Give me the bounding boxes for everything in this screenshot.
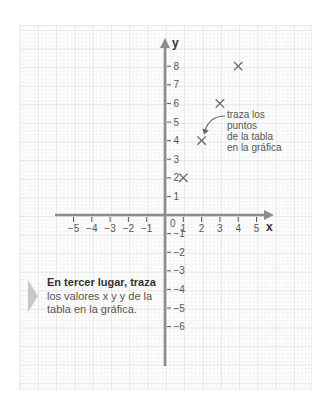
x-tick-label: 4 [235, 223, 241, 234]
y-tick-label: −1 [174, 228, 186, 239]
annotation-line: en la gráfica [227, 142, 281, 153]
x-marker-icon [197, 136, 205, 144]
callout-heading: En tercer lugar, traza [47, 276, 156, 290]
y-tick-label: 1 [174, 191, 180, 202]
x-tick-label: 3 [217, 223, 223, 234]
y-tick-label: −5 [174, 303, 186, 314]
y-tick-label: −4 [174, 284, 186, 295]
axes: xy [55, 36, 274, 366]
y-tick-label: 2 [174, 172, 180, 183]
y-tick-label: 4 [174, 135, 180, 146]
annotation-line: traza los [227, 109, 281, 120]
x-tick-label: −5 [68, 223, 80, 234]
x-tick-label: −4 [86, 223, 98, 234]
callout-line: los valores x y y de la [47, 290, 156, 304]
x-tick-label: 5 [254, 223, 260, 234]
annotation-line: puntos [227, 120, 281, 131]
coordinate-plane: xy −5−4−3−2−1012345−6−5−4−3−2−112345678 [0, 0, 330, 408]
x-axis-label: x [266, 220, 273, 234]
y-tick-label: 7 [174, 79, 180, 90]
y-tick-label: 3 [174, 154, 180, 165]
y-tick-label: 6 [174, 98, 180, 109]
x-marker-icon [234, 62, 242, 70]
x-axis-arrow-icon [264, 210, 274, 220]
instruction-callout: En tercer lugar, traza los valores x y y… [28, 276, 168, 316]
y-tick-label: −6 [174, 321, 186, 332]
y-tick-label: 8 [174, 61, 180, 72]
callout-text: En tercer lugar, traza los valores x y y… [47, 276, 156, 317]
x-marker-icon [179, 174, 187, 182]
y-tick-label: −2 [174, 247, 186, 258]
annotation-line: de la tabla [227, 131, 281, 142]
y-axis-arrow-icon [160, 38, 170, 48]
x-marker-icon [216, 99, 224, 107]
callout-line: tabla en la gráfica. [47, 303, 156, 317]
annotation-arrow-icon [202, 116, 225, 135]
y-axis-label: y [172, 36, 179, 50]
figure-page: xy −5−4−3−2−1012345−6−5−4−3−2−112345678 … [0, 0, 330, 408]
annotation-label: traza los puntos de la tabla en la gráfi… [227, 109, 281, 153]
y-tick-label: 5 [174, 117, 180, 128]
triangle-pointer-icon [28, 280, 38, 312]
x-tick-label: −1 [141, 223, 153, 234]
y-tick-label: −3 [174, 265, 186, 276]
x-tick-label: 2 [199, 223, 205, 234]
x-tick-label: −2 [123, 223, 135, 234]
x-tick-label: −3 [104, 223, 116, 234]
